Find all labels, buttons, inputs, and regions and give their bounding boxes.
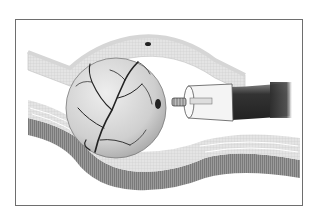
endoscope-instrument [172,82,292,121]
vascular-sphere [66,58,166,158]
medical-illustration [0,0,319,221]
sphere-opening [155,99,161,109]
small-dark-spot [145,42,151,46]
